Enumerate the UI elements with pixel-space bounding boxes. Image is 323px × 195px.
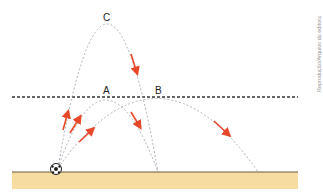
- label-c: C: [103, 12, 110, 23]
- arrow-a-up: [70, 117, 80, 133]
- arrow-c-down: [131, 54, 137, 73]
- label-b: B: [155, 85, 162, 96]
- label-a: A: [103, 85, 110, 96]
- trajectory-diagram: C A B: [0, 0, 323, 195]
- trajectory-b: [58, 98, 258, 172]
- soccer-ball-icon: [51, 164, 62, 175]
- arrow-b-up: [79, 129, 93, 142]
- trajectory-c: [58, 24, 158, 172]
- image-credit: Reprodução/Arquivo da editora: [307, 4, 317, 94]
- trajectory-a: [58, 100, 158, 172]
- credit-text: Reprodução/Arquivo da editora: [316, 16, 322, 92]
- arrow-b-down: [214, 121, 229, 135]
